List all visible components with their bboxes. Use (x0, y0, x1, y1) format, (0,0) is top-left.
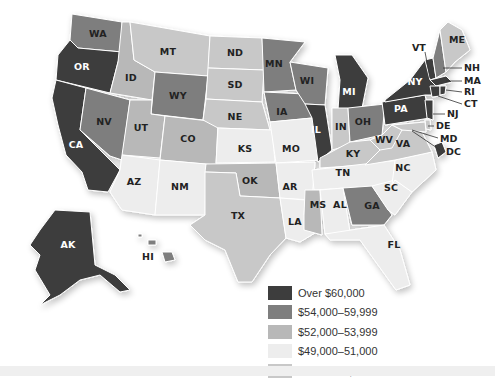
state-label-ny: NY (407, 76, 422, 87)
state-label-in: IN (335, 121, 347, 132)
legend-item-52000-53999: $52,000–53,999 (268, 322, 378, 342)
state-mi (335, 55, 368, 110)
state-label-sc: SC (384, 182, 398, 193)
state-label-wv: WV (375, 134, 394, 145)
state-label-tx: TX (231, 210, 246, 221)
state-label-md: MD (440, 133, 457, 144)
state-label-ia: IA (276, 106, 288, 117)
state-label-mt: MT (160, 46, 177, 57)
state-label-ky: KY (346, 148, 361, 159)
state-label-ak: AK (60, 239, 76, 250)
state-label-ne: NE (228, 111, 243, 122)
legend-swatch (268, 286, 292, 300)
state-ms (304, 190, 322, 235)
state-label-wy: WY (169, 90, 187, 101)
legend-swatch (268, 344, 292, 358)
state-label-co: CO (180, 133, 195, 144)
state-label-nj: NJ (447, 108, 459, 119)
state-label-nc: NC (395, 162, 410, 173)
state-label-wi: WI (300, 75, 314, 86)
state-label-de: DE (436, 120, 450, 131)
state-label-ca: CA (69, 139, 84, 150)
state-label-sd: SD (227, 79, 242, 90)
state-label-ga: GA (364, 200, 380, 211)
state-label-ma: MA (464, 75, 481, 86)
legend-label: $49,000–51,000 (298, 345, 378, 357)
state-label-va: VA (396, 138, 411, 149)
state-label-nd: ND (227, 47, 243, 58)
state-label-nv: NV (96, 116, 112, 127)
state-label-mi: MI (342, 86, 355, 97)
state-label-az: AZ (127, 176, 142, 187)
legend-label: $52,000–53,999 (298, 326, 378, 338)
state-label-mn: MN (265, 58, 283, 69)
state-label-dc: DC (446, 146, 461, 157)
state-ct (430, 86, 440, 97)
bottom-strip (0, 366, 495, 376)
legend-swatch (268, 325, 292, 339)
state-ak (30, 210, 130, 305)
legend-item-49000-51000: $49,000–51,000 (268, 342, 378, 362)
state-label-oh: OH (355, 116, 371, 127)
state-label-tn: TN (336, 167, 351, 178)
state-ri (440, 86, 446, 95)
state-label-ri: RI (464, 86, 475, 97)
legend-item-54000-59999: $54,000–59,999 (268, 303, 378, 323)
state-label-mo: MO (282, 143, 300, 154)
state-label-il: IL (311, 124, 321, 135)
state-label-al: AL (333, 199, 347, 210)
state-label-id: ID (125, 72, 137, 83)
state-label-nm: NM (171, 181, 189, 192)
state-label-fl: FL (388, 239, 401, 250)
state-label-ar: AR (282, 181, 298, 192)
state-label-ok: OK (242, 175, 258, 186)
state-label-wa: WA (89, 28, 107, 39)
state-label-hi: HI (142, 251, 154, 262)
state-label-ct: CT (464, 98, 478, 109)
state-label-ks: KS (238, 143, 253, 154)
legend-label: $54,000–59,999 (298, 306, 378, 318)
state-label-or: OR (74, 61, 90, 72)
state-fl (325, 225, 410, 290)
state-label-vt: VT (412, 42, 426, 53)
state-label-ut: UT (134, 122, 149, 133)
state-label-ms: MS (310, 199, 327, 210)
state-label-la: LA (288, 216, 302, 227)
legend-swatch (268, 305, 292, 319)
legend-label: Over $60,000 (298, 287, 365, 299)
state-label-nh: NH (464, 62, 480, 73)
state-label-me: ME (449, 34, 465, 45)
legend-item-over-60000: Over $60,000 (268, 283, 378, 303)
state-label-pa: PA (394, 103, 408, 114)
